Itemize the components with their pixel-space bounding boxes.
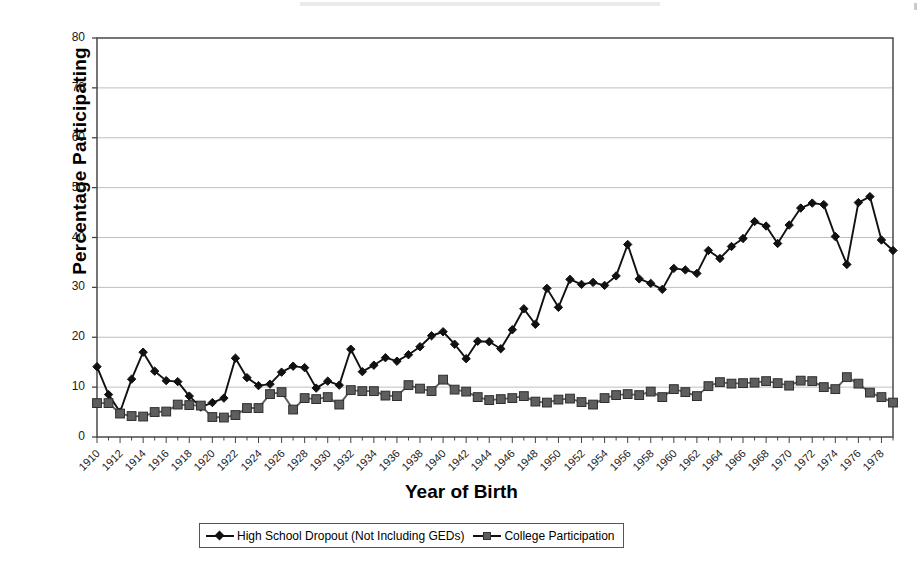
data-point-square bbox=[335, 400, 344, 409]
y-tick-label: 10 bbox=[59, 379, 85, 393]
y-tick-label: 70 bbox=[59, 80, 85, 94]
data-point-square bbox=[785, 381, 794, 390]
data-point-square bbox=[669, 385, 678, 394]
legend-label-dropout: High School Dropout (Not Including GEDs) bbox=[237, 529, 464, 543]
data-point-diamond bbox=[820, 200, 828, 208]
data-point-diamond bbox=[312, 384, 320, 392]
data-point-square bbox=[508, 394, 517, 403]
data-point-diamond bbox=[543, 284, 551, 292]
data-point-diamond bbox=[589, 278, 597, 286]
data-point-square bbox=[369, 387, 378, 396]
data-point-diamond bbox=[658, 285, 666, 293]
data-point-square bbox=[196, 401, 205, 410]
data-point-square bbox=[462, 387, 471, 396]
data-point-square bbox=[589, 400, 598, 409]
data-point-diamond bbox=[693, 269, 701, 277]
legend-entry-dropout[interactable]: High School Dropout (Not Including GEDs) bbox=[206, 529, 464, 543]
data-point-square bbox=[346, 386, 355, 395]
data-point-diamond bbox=[139, 348, 147, 356]
data-point-square bbox=[358, 387, 367, 396]
data-point-diamond bbox=[300, 363, 308, 371]
data-point-square bbox=[566, 394, 575, 403]
data-point-diamond bbox=[808, 199, 816, 207]
data-point-diamond bbox=[220, 394, 228, 402]
data-point-square bbox=[208, 413, 217, 422]
data-point-square bbox=[427, 387, 436, 396]
data-point-diamond bbox=[485, 338, 493, 346]
data-point-square bbox=[646, 387, 655, 396]
data-point-square bbox=[150, 408, 159, 417]
data-point-diamond bbox=[831, 232, 839, 240]
data-point-diamond bbox=[681, 266, 689, 274]
data-point-square bbox=[658, 393, 667, 402]
data-point-diamond bbox=[208, 398, 216, 406]
data-point-square bbox=[231, 411, 240, 420]
data-point-diamond bbox=[127, 375, 135, 383]
data-point-square bbox=[416, 384, 425, 393]
data-point-square bbox=[612, 391, 621, 400]
data-point-square bbox=[254, 404, 263, 413]
data-point-square bbox=[854, 379, 863, 388]
data-point-diamond bbox=[635, 275, 643, 283]
data-point-diamond bbox=[231, 354, 239, 362]
square-marker-icon bbox=[473, 530, 501, 542]
data-point-square bbox=[185, 401, 194, 410]
data-point-diamond bbox=[393, 357, 401, 365]
y-tick-label: 0 bbox=[59, 429, 85, 443]
data-point-square bbox=[819, 383, 828, 392]
y-tick-label: 40 bbox=[59, 230, 85, 244]
data-point-square bbox=[727, 379, 736, 388]
data-point-square bbox=[312, 395, 321, 404]
data-point-square bbox=[323, 393, 332, 402]
data-point-diamond bbox=[623, 240, 631, 248]
data-point-square bbox=[289, 405, 298, 414]
data-point-square bbox=[600, 394, 609, 403]
y-tick-label: 60 bbox=[59, 130, 85, 144]
data-point-square bbox=[543, 398, 552, 407]
data-point-square bbox=[773, 379, 782, 388]
data-point-square bbox=[450, 385, 459, 394]
data-point-square bbox=[116, 409, 125, 418]
data-point-square bbox=[243, 404, 252, 413]
data-point-square bbox=[716, 378, 725, 387]
data-point-diamond bbox=[554, 303, 562, 311]
data-point-square bbox=[104, 399, 113, 408]
data-point-square bbox=[877, 393, 886, 402]
data-point-square bbox=[842, 373, 851, 382]
chart-legend: High School Dropout (Not Including GEDs)… bbox=[199, 523, 624, 548]
data-point-square bbox=[220, 413, 229, 422]
y-tick-label: 30 bbox=[59, 279, 85, 293]
data-point-square bbox=[750, 378, 759, 387]
data-point-square bbox=[485, 396, 494, 405]
data-point-square bbox=[692, 392, 701, 401]
data-point-square bbox=[404, 381, 413, 390]
data-point-square bbox=[266, 390, 275, 399]
data-point-diamond bbox=[866, 192, 874, 200]
y-tick-label: 20 bbox=[59, 329, 85, 343]
data-point-square bbox=[519, 392, 528, 401]
chart-figure: Percentage Participating Year of Birth 0… bbox=[0, 0, 923, 577]
data-point-diamond bbox=[335, 381, 343, 389]
data-point-diamond bbox=[289, 362, 297, 370]
data-point-square bbox=[473, 393, 482, 402]
data-point-square bbox=[277, 388, 286, 397]
data-point-square bbox=[496, 395, 505, 404]
data-point-diamond bbox=[347, 345, 355, 353]
data-point-square bbox=[439, 375, 448, 384]
data-point-square bbox=[300, 394, 309, 403]
y-tick-label: 80 bbox=[59, 30, 85, 44]
data-point-square bbox=[681, 388, 690, 397]
data-point-square bbox=[393, 392, 402, 401]
data-point-square bbox=[796, 376, 805, 385]
data-point-square bbox=[762, 377, 771, 386]
data-point-square bbox=[635, 391, 644, 400]
data-point-square bbox=[889, 398, 898, 407]
data-point-diamond bbox=[843, 260, 851, 268]
diamond-marker-icon bbox=[206, 530, 234, 542]
legend-entry-college[interactable]: College Participation bbox=[473, 529, 614, 543]
data-point-diamond bbox=[93, 362, 101, 370]
data-point-square bbox=[808, 377, 817, 386]
data-point-diamond bbox=[324, 377, 332, 385]
data-point-square bbox=[139, 412, 148, 421]
data-point-square bbox=[554, 395, 563, 404]
